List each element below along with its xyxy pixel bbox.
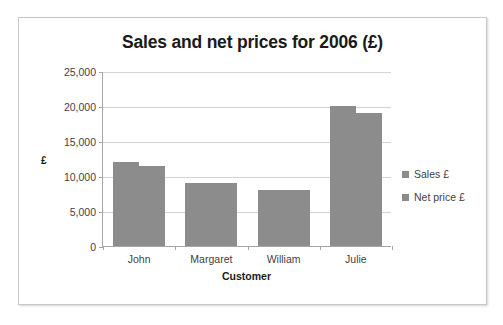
bar-net-price[interactable] xyxy=(356,113,382,246)
bar-group xyxy=(330,72,382,246)
bar-sales[interactable] xyxy=(258,190,284,246)
x-axis-tick xyxy=(248,246,249,250)
bar-group xyxy=(258,72,310,246)
plot-area: 05,00010,00015,00020,00025,000JohnMargar… xyxy=(102,72,391,247)
x-axis-tick xyxy=(103,246,104,250)
y-axis-tick xyxy=(99,72,103,73)
chart-container: Sales and net prices for 2006 (£) £ 05,0… xyxy=(18,17,487,305)
y-axis-label: 10,000 xyxy=(64,171,96,183)
bar-net-price[interactable] xyxy=(211,183,237,246)
bar-net-price[interactable] xyxy=(139,166,165,247)
legend-item[interactable]: Net price £ xyxy=(402,191,465,203)
legend-swatch-icon xyxy=(402,194,409,201)
x-axis-label: John xyxy=(128,253,151,265)
chart-title: Sales and net prices for 2006 (£) xyxy=(19,32,486,53)
legend-item-label: Sales £ xyxy=(414,168,449,180)
y-axis-title: £ xyxy=(41,155,47,166)
bar-net-price[interactable] xyxy=(284,190,310,246)
legend-item[interactable]: Sales £ xyxy=(402,168,465,180)
y-axis-tick xyxy=(99,142,103,143)
y-axis-tick xyxy=(99,177,103,178)
bar-sales[interactable] xyxy=(113,162,139,246)
bar-sales[interactable] xyxy=(330,106,356,246)
x-axis-label: Margaret xyxy=(190,253,232,265)
y-axis-tick xyxy=(99,212,103,213)
x-axis-tick xyxy=(175,246,176,250)
x-axis-title: Customer xyxy=(102,270,391,282)
y-axis-label: 20,000 xyxy=(64,101,96,113)
chart-legend: Sales £Net price £ xyxy=(402,168,465,214)
y-axis-label: 0 xyxy=(90,241,96,253)
bar-group xyxy=(185,72,237,246)
x-axis-tick xyxy=(320,246,321,250)
y-axis-label: 25,000 xyxy=(64,66,96,78)
legend-item-label: Net price £ xyxy=(414,191,465,203)
y-axis-label: 5,000 xyxy=(70,206,96,218)
bar-sales[interactable] xyxy=(185,183,211,246)
x-axis-tick xyxy=(392,246,393,250)
y-axis-tick xyxy=(99,107,103,108)
y-axis-label: 15,000 xyxy=(64,136,96,148)
x-axis-label: Julie xyxy=(345,253,367,265)
legend-swatch-icon xyxy=(402,171,409,178)
x-axis-label: William xyxy=(267,253,301,265)
bar-group xyxy=(113,72,165,246)
